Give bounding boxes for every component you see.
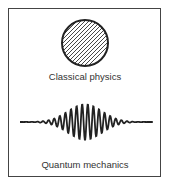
classical-physics-label: Classical physics [0, 71, 170, 82]
wave-packet-icon [20, 105, 153, 140]
hatched-circle-icon [16, 8, 146, 78]
quantum-mechanics-label: Quantum mechanics [0, 159, 170, 170]
